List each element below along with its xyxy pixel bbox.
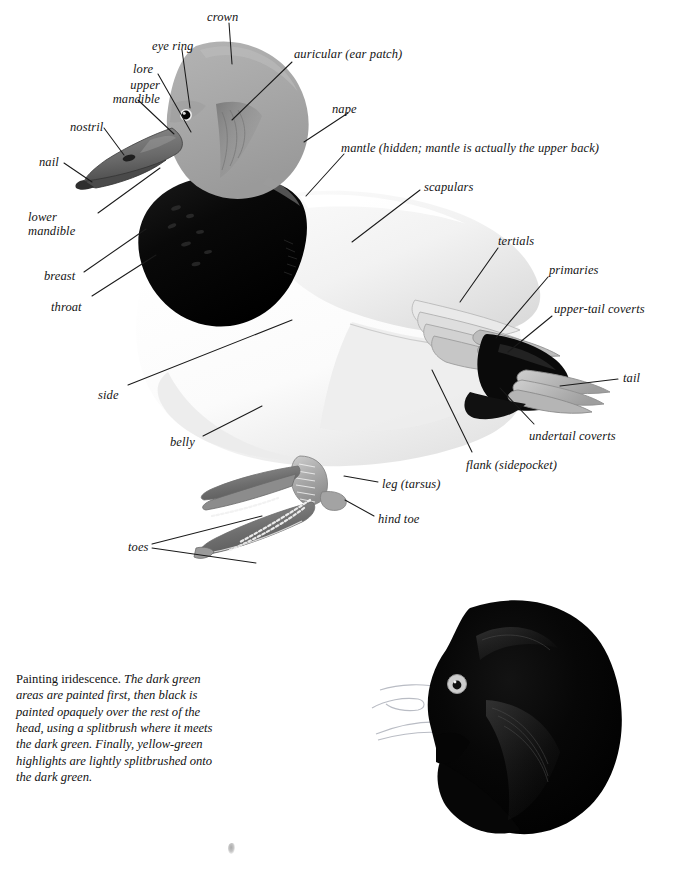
tarsus-scales [296,464,315,502]
head-shape [167,42,309,199]
leader-toes-lower [152,548,256,563]
label-eye-ring: eye ring [152,39,193,53]
leader-nape [304,113,348,142]
label-throat: throat [51,300,82,314]
leader-hind-toe [345,500,374,516]
label-nape: nape [332,102,357,116]
leader-nail [64,163,92,182]
head-study-splitbrush-streaks [482,635,550,782]
near-foot-web [200,502,315,555]
head-neck-edge [262,176,300,206]
leader-mantle [306,154,344,196]
head-study-crown-sheen [476,627,558,660]
head-study-eye-pupil [453,681,462,690]
tertials-group [412,300,538,371]
caption-body: The dark green areas are painted first, … [16,672,212,784]
print-smudge [228,843,235,854]
auricular-shading [216,102,262,178]
head-study-shape [428,600,622,834]
mantle-ridge [300,195,466,224]
leader-primaries [496,277,548,338]
undertail-coverts-shape [464,392,526,419]
label-auricular: auricular (ear patch) [294,47,402,61]
label-tertials: tertials [498,234,534,248]
head-study-cheek-sheen [486,700,560,820]
label-crown: crown [207,10,238,24]
leader-tertials [460,248,498,302]
label-undertail-coverts: undertail coverts [529,429,616,443]
leader-lower-mandible [98,168,160,213]
auricular-streaks [222,110,245,170]
label-scapulars: scapulars [424,180,474,194]
rump-sheen [498,344,556,370]
breast-shape [138,175,307,326]
upper-tail-coverts-shape [477,334,570,411]
leader-crown [229,23,232,64]
scapulars-shape [267,191,540,334]
leg-tarsus-shape [291,456,328,505]
label-lore: lore [133,62,153,76]
body-shape [136,246,524,466]
head-study-eye-highlight [454,681,457,684]
label-upper-tail-coverts: upper-tail coverts [554,302,645,316]
tail-group [508,370,610,413]
nail-shape [75,180,94,190]
head-study-chin [436,733,470,764]
head-study-eye-outer [448,675,467,694]
far-foot-toe [203,474,296,510]
eye-ring-shape [181,110,191,120]
lower-mandible-shape [86,160,166,188]
label-side: side [98,388,119,402]
leader-belly [203,406,262,436]
label-toes: toes [128,540,149,554]
label-breast: breast [44,269,75,283]
label-hind-toe: hind toe [378,512,419,526]
eye-highlight [183,112,186,115]
leader-undertail-coverts [500,388,534,424]
primaries-group [473,330,562,368]
bill-outline-sketch [372,685,450,740]
flank-edge [350,324,500,346]
nostril-shape [122,153,136,162]
leader-nostril [104,128,124,155]
leader-scapulars [352,190,420,242]
eye-pupil [181,110,191,120]
toe-tip [194,547,214,558]
leader-upper-tail-coverts [508,316,552,352]
leader-flank [432,370,472,452]
painting-iridescence-caption: Painting iridescence. The dark green are… [16,671,228,786]
label-lower-mandible: lower mandible [28,210,108,238]
leader-auricular [232,62,292,120]
caption-lead: Painting iridescence. [16,672,121,686]
duck-body-art [75,42,610,559]
label-belly: belly [170,435,195,449]
neck-fringe [284,240,297,275]
far-foot-web [201,466,300,500]
leader-eye-ring [182,50,190,108]
leader-leg-tarsus [344,476,378,482]
near-foot-edge [200,521,302,554]
label-tail: tail [623,371,640,385]
label-nail: nail [39,155,59,169]
label-nostril: nostril [70,120,103,134]
leader-toes-upper [152,516,262,544]
head-study-jaw [438,762,520,834]
leader-side [128,320,292,385]
toe-scales [212,498,310,550]
flank-shading [320,322,502,431]
label-mantle: mantle (hidden; mantle is actually the u… [341,141,599,155]
label-leg-tarsus: leg (tarsus) [382,477,441,491]
hind-toe-shape [320,491,346,510]
iridescent-head-study-art [372,600,622,834]
crown-shading [200,46,298,92]
upper-mandible-shape [84,128,182,183]
label-flank: flank (sidepocket) [466,458,557,472]
lore-shading [170,100,206,122]
leader-throat [92,255,156,296]
page-canvas: crown eye ring auricular (ear patch) lor… [0,0,673,870]
breast-flecks [167,204,212,267]
label-primaries: primaries [549,263,599,277]
leader-lore [158,74,191,132]
leader-tail [560,379,618,386]
head-study-eye-ring [448,675,467,694]
